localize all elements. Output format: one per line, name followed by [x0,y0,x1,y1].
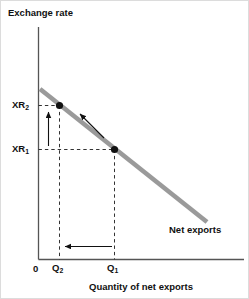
x-tick-label-q2: Q2 [52,263,63,273]
net-exports-curve [40,89,207,222]
point-xr1-q1 [111,146,118,153]
y-tick-label-xr1: XR1 [12,144,29,154]
net-exports-curve-label: Net exports [169,225,221,235]
origin-label: 0 [33,264,38,274]
y-tick-xr2-sub: 2 [25,104,29,111]
y-tick-label-xr2: XR2 [12,100,29,110]
y-axis-title: Exchange rate [8,8,73,18]
x-tick-q2-sub: 2 [59,267,63,274]
chart-canvas [1,1,249,299]
x-tick-q1-sub: 1 [114,267,118,274]
x-axis-title: Quantity of net exports [89,282,193,292]
point-xr2-q2 [56,102,63,109]
y-tick-xr2-main: XR [12,99,25,110]
y-tick-xr1-sub: 1 [25,148,29,155]
y-tick-xr1-main: XR [12,143,25,154]
net-exports-diagram: Exchange rate Quantity of net exports Ne… [0,0,249,299]
x-tick-label-q1: Q1 [107,263,118,273]
